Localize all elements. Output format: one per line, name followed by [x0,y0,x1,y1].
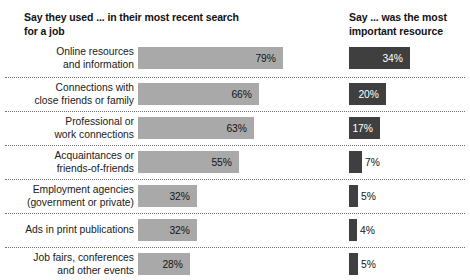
grouped-bar-chart: Say they used ... in their most recent s… [0,0,470,280]
important-bar: 4% [349,219,357,241]
usage-bar-container: 63% [138,117,254,139]
chart-row: Online resourcesand information79%34% [0,39,470,77]
bar-value-label: 55% [211,157,232,168]
usage-bar-container: 32% [138,219,197,241]
row-label-line2: and other events [57,265,134,276]
row-label-line2: work connections [54,129,134,140]
bar-value-label: 32% [169,191,190,202]
important-bar-container: 7% [349,151,362,173]
chart-row: Employment agencies(government or privat… [0,179,470,213]
important-bar-container: 17% [349,117,380,139]
row-divider [5,111,465,113]
bar-value-label: 4% [360,225,375,236]
important-bar-container: 5% [349,253,358,275]
usage-bar: 66% [138,83,259,105]
bar-value-label: 79% [255,53,276,64]
row-label-line2: and information [63,59,134,70]
important-bar: 34% [349,47,410,69]
usage-bar-container: 55% [138,151,239,173]
important-bar: 5% [349,253,358,275]
important-bar: 5% [349,185,358,207]
chart-row: Connections withclose friends or family6… [0,77,470,111]
chart-row: Acquaintances orfriends-of-friends55%7% [0,145,470,179]
chart-row: Ads in print publications32%4% [0,213,470,247]
bar-value-label: 66% [231,89,252,100]
important-bar-container: 34% [349,47,410,69]
row-label: Professional orwork connections [0,115,134,141]
usage-bar-container: 28% [138,253,190,275]
row-label: Connections withclose friends or family [0,81,134,107]
chart-row: Job fairs, conferencesand other events28… [0,247,470,280]
row-label: Online resourcesand information [0,45,134,71]
chart-rows: Online resourcesand information79%34%Con… [0,39,470,280]
row-divider [5,145,465,147]
row-label-line2: close friends or family [34,95,134,106]
usage-bar: 32% [138,185,197,207]
bar-value-label: 17% [352,123,373,134]
usage-bar: 55% [138,151,239,173]
row-label-line2: friends-of-friends [57,163,134,174]
row-label: Acquaintances orfriends-of-friends [0,149,134,175]
row-label: Ads in print publications [0,223,134,236]
usage-bar-container: 32% [138,185,197,207]
row-label: Employment agencies(government or privat… [0,183,134,209]
usage-bar: 63% [138,117,254,139]
bar-value-label: 63% [226,123,247,134]
usage-bar: 28% [138,253,190,275]
usage-bar-container: 66% [138,83,259,105]
important-bar: 17% [349,117,380,139]
row-divider [5,213,465,215]
bar-value-label: 20% [358,89,379,100]
column-heading-usage: Say they used ... in their most recent s… [24,11,254,39]
usage-bar: 79% [138,47,283,69]
column-heading-most-important: Say ... was the most important resource [349,11,467,39]
bar-value-label: 5% [361,191,376,202]
bar-value-label: 28% [162,259,183,270]
important-bar-container: 4% [349,219,357,241]
bar-value-label: 32% [169,225,190,236]
important-bar-container: 20% [349,83,386,105]
important-bar: 20% [349,83,386,105]
important-bar: 7% [349,151,362,173]
bar-value-label: 34% [382,53,403,64]
usage-bar: 32% [138,219,197,241]
bar-value-label: 5% [361,259,376,270]
chart-row: Professional orwork connections63%17% [0,111,470,145]
row-divider [5,179,465,181]
row-label-line2: (government or private) [27,197,134,208]
row-divider [5,77,465,79]
row-divider [5,247,465,249]
important-bar-container: 5% [349,185,358,207]
row-label: Job fairs, conferencesand other events [0,251,134,277]
bar-value-label: 7% [365,157,380,168]
usage-bar-container: 79% [138,47,283,69]
